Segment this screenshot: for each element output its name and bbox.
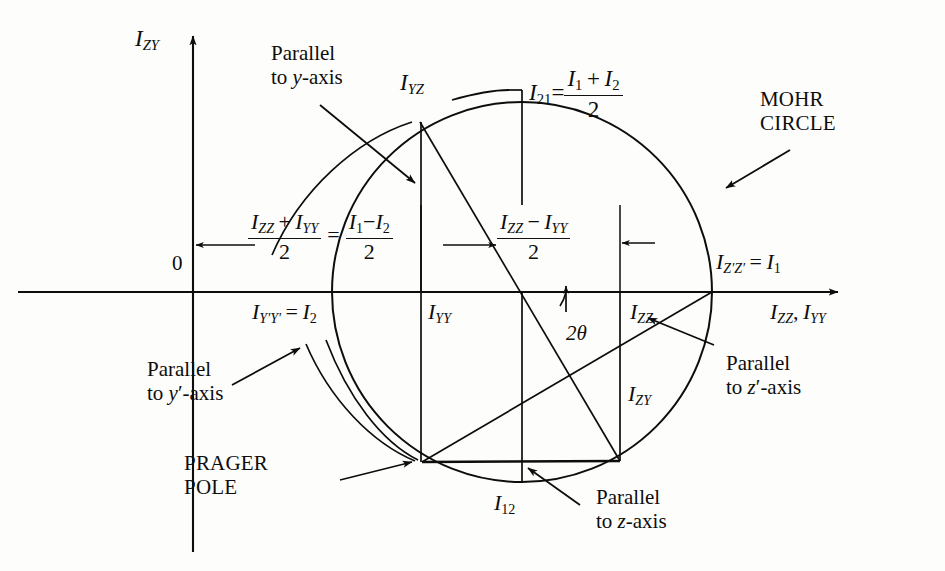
vertical-axis-label-sub: ZY [143, 37, 159, 53]
center-rhs-sub1: 1 [356, 220, 363, 236]
center-eq-sign: = [321, 222, 345, 247]
callout-z-line2: to z-axis [596, 510, 667, 534]
i12-sub: 12 [501, 501, 515, 517]
callout-parallel-y-line1: Parallel [271, 42, 343, 66]
center-lhs-plus: + [278, 209, 290, 234]
izpzp-rhs-sub: 1 [774, 260, 781, 276]
center-rhs-fraction: I1−I22 [346, 210, 393, 265]
label-I-ZY: IZY [628, 382, 651, 409]
origin-label: 0 [172, 252, 183, 276]
mean-lhs-sub: 21 [537, 91, 552, 107]
leader-parallel-yprime [232, 348, 300, 385]
prager-line2: POLE [184, 476, 268, 500]
callout-zprime-line1: Parallel [726, 352, 801, 376]
izpzp-eq: = [750, 249, 762, 274]
callout-yprime-line1: Parallel [147, 358, 223, 382]
label-2theta: 2θ [566, 322, 587, 346]
two-theta-text: 2θ [566, 321, 587, 345]
callout-yprime-line2: to y′-axis [147, 382, 223, 406]
center-rhs-sub2: 2 [383, 220, 390, 236]
callout-zprime-line2: to z′-axis [726, 376, 801, 400]
callout-leaders [232, 90, 790, 505]
equation-radius: IZZ − IYY2 [497, 210, 570, 265]
mean-numerator: I1 + I2 [564, 66, 622, 95]
iyy-sub: YY [435, 310, 451, 326]
callout-parallel-to-yprime-axis: Parallel to y′-axis [147, 358, 223, 405]
italic-y: y [293, 65, 302, 89]
mohr-line1: MOHR [760, 88, 836, 112]
izy-sub: ZY [635, 392, 651, 408]
center-lhs-sub2: YY [303, 220, 319, 236]
center-rhs-numerator: I1−I2 [346, 210, 393, 238]
h-axis-sub1: ZZ [777, 310, 793, 326]
center-rhs-I2: I [375, 209, 382, 234]
callout-parallel-to-zprime-axis: Parallel to z′-axis [726, 352, 801, 399]
axis-lines [18, 36, 838, 552]
radius-minus: − [527, 209, 539, 234]
radius-sub2: YY [552, 220, 568, 236]
center-rhs-I1: I [349, 209, 356, 234]
arc-yprime-1 [306, 344, 415, 461]
mohr-line2: CIRCLE [760, 112, 836, 136]
center-lhs-sub1: ZZ [258, 220, 274, 236]
radius-I2: I [544, 209, 551, 234]
vertical-axis-label-I: I [135, 26, 143, 51]
izz-sub: ZZ [637, 310, 653, 326]
label-I-YpYp: IY′Y′ = I2 [252, 300, 317, 327]
center-lhs-fraction: IZZ + IYY2 [248, 210, 321, 265]
center-lhs-den: 2 [248, 238, 321, 265]
label-I-YZ-I: I [400, 70, 408, 95]
mean-num-I1: I [567, 66, 575, 91]
iypyp-sub: Y′Y′ [259, 310, 281, 326]
mohr-circle-figure: IZY 0 IZZ, IYY Parallel to y-axis IYZ I2… [0, 0, 945, 571]
label-I-YZ-sub: YZ [408, 81, 424, 97]
origin-label-text: 0 [172, 251, 183, 275]
radius-numerator: IZZ − IYY [497, 210, 570, 238]
mean-num-sub2: 2 [612, 77, 619, 93]
label-I-12: I12 [494, 491, 515, 518]
mean-num-sub1: 1 [575, 77, 582, 93]
izpzp-sub: Z′Z′ [723, 260, 745, 276]
iypyp-eq: = [286, 299, 298, 324]
callout-z-line1: Parallel [596, 486, 667, 510]
chord-prager-to-bottom-right [422, 461, 620, 462]
equation-mean-I21: I21=I1 + I22 [529, 66, 623, 123]
angle-arc-2theta [560, 292, 566, 306]
leader-mohr-circle [726, 150, 790, 188]
label-I-ZpZp: IZ′Z′ = I1 [716, 250, 781, 277]
mean-lhs-I: I [529, 80, 537, 105]
label-I-YZ: IYZ [400, 70, 424, 98]
leader-parallel-zprime [648, 318, 714, 345]
label-I-YY: IYY [428, 300, 451, 327]
iypyp-rhs-I: I [302, 299, 309, 324]
mean-fraction: I1 + I22 [564, 66, 622, 123]
mean-denominator: 2 [564, 95, 622, 123]
h-axis-comma: , [793, 299, 799, 324]
leader-parallel-y-axis [320, 105, 415, 183]
callout-parallel-y-line2: to y-axis [271, 66, 343, 90]
label-prager-pole: PRAGER POLE [184, 452, 268, 499]
diagram-canvas [0, 0, 945, 571]
radius-den: 2 [497, 238, 570, 265]
prager-line1: PRAGER [184, 452, 268, 476]
equation-center: IZZ + IYY2=I1−I22 [248, 210, 393, 265]
label-mohr-circle: MOHR CIRCLE [760, 88, 836, 135]
mean-num-plus: + [587, 66, 600, 91]
center-rhs-den: 2 [346, 238, 393, 265]
horizontal-axis-label: IZZ, IYY [770, 300, 826, 327]
mean-eq-sign: = [551, 80, 564, 105]
callout-parallel-to-z-axis: Parallel to z-axis [596, 486, 667, 533]
h-axis-sub2: YY [810, 310, 826, 326]
leader-parallel-z-axis [528, 468, 580, 505]
radius-fraction: IZZ − IYY2 [497, 210, 570, 265]
iypyp-rhs-sub: 2 [310, 310, 317, 326]
leader-prager-pole [340, 462, 412, 480]
izpzp-rhs-I: I [766, 249, 773, 274]
leader-I-YZ [452, 90, 509, 100]
vertical-axis-label: IZY [135, 26, 159, 54]
center-lhs-numerator: IZZ + IYY [248, 210, 321, 238]
radius-sub1: ZZ [507, 220, 523, 236]
callout-parallel-to-y-axis: Parallel to y-axis [271, 42, 343, 89]
center-rhs-minus: − [363, 209, 375, 234]
label-I-ZZ: IZZ [630, 300, 653, 327]
